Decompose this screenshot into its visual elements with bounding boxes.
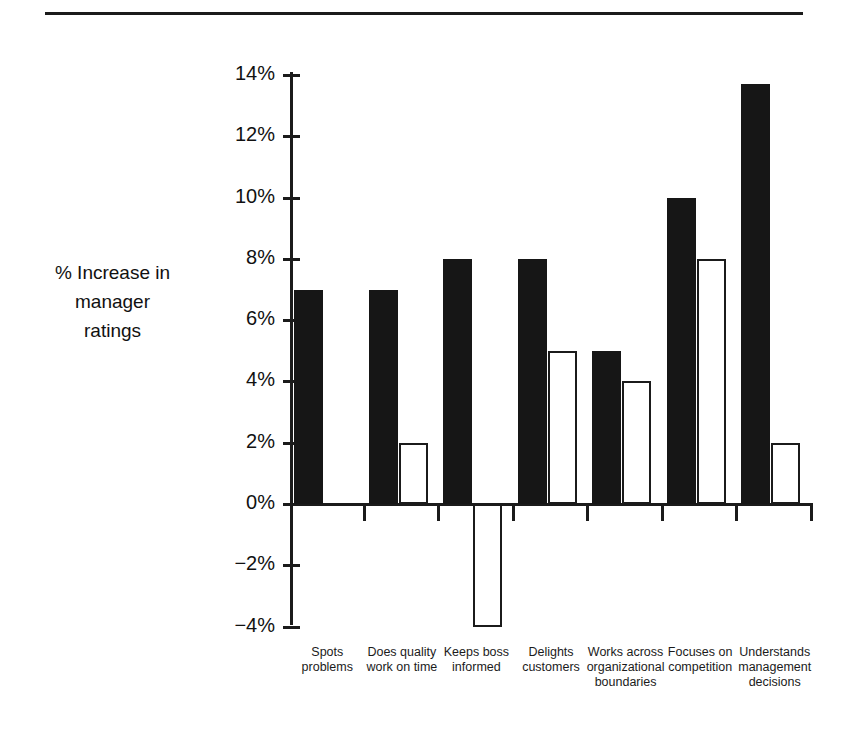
bar-open-3 [473, 504, 502, 627]
x-group-tick-7 [810, 503, 813, 521]
bar-open-5 [622, 381, 651, 504]
bar-filled-7 [741, 84, 770, 504]
y-tick-label: 8% [203, 246, 275, 269]
bar-filled-6 [667, 198, 696, 504]
y-tick-14 [283, 74, 300, 77]
y-tick-label: −2% [203, 552, 275, 575]
x-group-tick-2 [437, 503, 440, 521]
y-tick-label: 2% [203, 430, 275, 453]
x-category-label-7: Understands management decisions [729, 645, 821, 690]
y-tick-label: 4% [203, 368, 275, 391]
y-axis-line [290, 72, 293, 625]
x-group-tick-5 [661, 503, 664, 521]
y-tick-label: 10% [203, 185, 275, 208]
bar-filled-5 [592, 351, 621, 504]
bar-filled-1 [294, 290, 323, 505]
y-tick-minus2 [283, 564, 300, 567]
y-tick-label: 6% [203, 307, 275, 330]
bar-open-6 [697, 259, 726, 504]
x-axis-origin-tick [290, 503, 293, 521]
x-group-tick-6 [735, 503, 738, 521]
y-tick-8 [283, 258, 300, 261]
bar-filled-2 [369, 290, 398, 505]
x-group-tick-4 [586, 503, 589, 521]
y-tick-label: 0% [203, 491, 275, 514]
y-tick-10 [283, 197, 300, 200]
y-tick-label: −4% [203, 614, 275, 637]
bar-filled-3 [443, 259, 472, 504]
x-group-tick-1 [363, 503, 366, 521]
bar-chart-plot-area: 14%12%10%8%6%4%2%0%−2%−4% Spots problems… [0, 0, 846, 737]
chart-page: % Increase in manager ratings 14%12%10%8… [0, 0, 846, 737]
x-group-tick-3 [512, 503, 515, 521]
y-tick-label: 14% [203, 62, 275, 85]
bar-open-2 [399, 443, 428, 504]
bar-open-4 [548, 351, 577, 504]
y-tick-label: 12% [203, 123, 275, 146]
bar-open-7 [771, 443, 800, 504]
y-tick-minus4 [283, 626, 300, 629]
y-tick-12 [283, 135, 300, 138]
bar-filled-4 [518, 259, 547, 504]
